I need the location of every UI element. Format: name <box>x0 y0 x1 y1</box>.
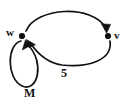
node-label-v: v <box>114 30 120 41</box>
node-label-w: w <box>6 27 14 38</box>
node-dot-v[interactable] <box>105 33 111 39</box>
node-dot-w[interactable] <box>19 33 25 39</box>
edge-w-to-v <box>26 11 106 31</box>
edge-label-weight: 5 <box>61 67 67 79</box>
edge-v-to-w <box>31 41 110 66</box>
arrowhead-at-v <box>101 24 110 33</box>
edge-label-self-loop: M <box>24 87 35 99</box>
graph-diagram: w v 5 M <box>0 0 128 103</box>
graph-canvas <box>0 0 128 103</box>
